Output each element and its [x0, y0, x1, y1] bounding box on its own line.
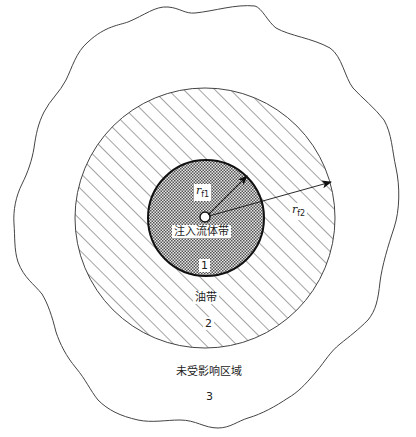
zone2-number-label: 2: [203, 317, 214, 330]
zone1-number-label: 1: [199, 259, 210, 272]
rf1-subscript: f1: [201, 190, 209, 199]
zone3-name-label: 未受影响区域: [176, 365, 242, 378]
wellbore-icon: [200, 212, 210, 222]
zone1-name-label: 注入流体带: [172, 225, 231, 238]
rf2-label: rf2: [290, 203, 307, 220]
rf1-label: rf1: [194, 184, 211, 201]
radial-flood-zones-diagram: rf1 rf2 注入流体带 1 油带 2 未受影响区域 3: [0, 0, 416, 437]
zone2-name-label: 油带: [193, 291, 219, 304]
rf2-subscript: f2: [297, 209, 305, 218]
zone3-number-label: 3: [206, 390, 213, 403]
